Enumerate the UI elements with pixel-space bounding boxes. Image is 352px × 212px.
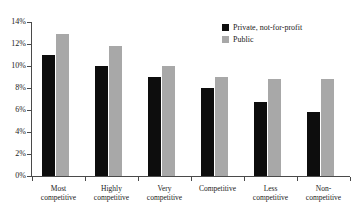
legend-swatch-icon — [222, 36, 229, 43]
x-axis-category-label: Highlycompetitive — [85, 184, 138, 202]
bar-group — [95, 22, 122, 176]
x-axis-tick-mark — [32, 177, 33, 181]
legend: Private, not-for-profitPublic — [222, 23, 302, 47]
bar — [215, 77, 228, 176]
x-axis-tick-mark — [297, 177, 298, 181]
x-axis-category-label: Non-competitive — [297, 184, 350, 202]
bar — [268, 79, 281, 176]
bar — [162, 66, 175, 176]
legend-label: Private, not-for-profit — [233, 23, 302, 32]
y-axis-tick-label: 2% — [15, 150, 26, 158]
x-axis-tick-mark — [244, 177, 245, 181]
bar — [321, 79, 334, 176]
bar — [109, 46, 122, 176]
bar — [42, 55, 55, 176]
x-axis-tick-mark — [350, 177, 351, 181]
bar — [56, 34, 69, 176]
y-axis-tick-label: 8% — [15, 84, 26, 92]
y-axis-tick-label: 4% — [15, 128, 26, 136]
x-axis-tick-mark — [138, 177, 139, 181]
plot-area — [32, 22, 350, 176]
legend-label: Public — [233, 35, 253, 44]
bar-chart: 0%2%4%6%8%10%12%14% MostcompetitiveHighl… — [0, 0, 352, 212]
y-axis-tick-label: 10% — [11, 62, 26, 70]
x-axis-tick-mark — [191, 177, 192, 181]
bar — [201, 88, 214, 176]
bar — [254, 102, 267, 176]
bar-group — [42, 22, 69, 176]
x-axis-category-label: Lesscompetitive — [244, 184, 297, 202]
y-axis-tick-label: 14% — [11, 18, 26, 26]
y-axis-tick-label: 12% — [11, 40, 26, 48]
bar-group — [307, 22, 334, 176]
x-axis-category-label: Verycompetitive — [138, 184, 191, 202]
y-axis-tick-label: 0% — [15, 172, 26, 180]
legend-swatch-icon — [222, 24, 229, 31]
bar — [148, 77, 161, 176]
legend-item: Private, not-for-profit — [222, 23, 302, 32]
y-axis: 0%2%4%6%8%10%12%14% — [0, 0, 30, 212]
y-axis-tick-label: 6% — [15, 106, 26, 114]
x-axis-tick-mark — [85, 177, 86, 181]
bar-group — [148, 22, 175, 176]
bar — [95, 66, 108, 176]
x-axis-category-label: Mostcompetitive — [32, 184, 85, 202]
legend-item: Public — [222, 35, 302, 44]
x-axis-category-label: Competitive — [191, 184, 244, 193]
bar — [307, 112, 320, 176]
